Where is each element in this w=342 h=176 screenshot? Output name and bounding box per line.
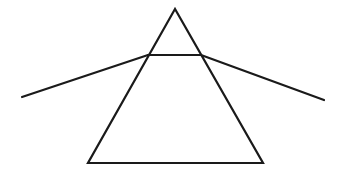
prism-triangle — [88, 9, 263, 163]
prism-diagram — [0, 0, 342, 176]
emergent-ray — [201, 55, 324, 100]
